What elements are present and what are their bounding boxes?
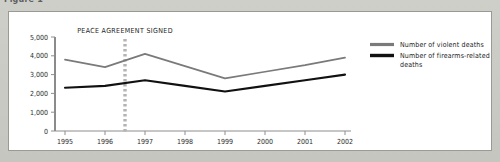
line-chart: 0 1,000 2,000 3,000 4,000 5,000 1995 199…	[9, 12, 493, 152]
x-tick-label-1998: 1998	[177, 138, 193, 146]
peace-agreement-annotation: PEACE AGREEMENT SIGNED	[77, 27, 173, 35]
y-tick-label-4000: 4,000	[30, 52, 48, 60]
figure-card: 0 1,000 2,000 3,000 4,000 5,000 1995 199…	[8, 11, 492, 151]
x-tick-label-1995: 1995	[57, 138, 73, 146]
legend-label-firearms-line2: deaths	[400, 61, 422, 69]
x-tick-label-1996: 1996	[97, 138, 113, 146]
figure-screenshot: Figure 1 0 1,000 2,000 3,000 4,000 5,00	[0, 0, 500, 162]
x-tick-label-2000: 2000	[257, 138, 273, 146]
figure-caption: Figure 1	[4, 0, 43, 4]
y-tick-label-0: 0	[44, 128, 48, 136]
series-line-firearms-deaths	[65, 75, 345, 92]
x-tick-label-2001: 2001	[297, 138, 313, 146]
series-line-violent-deaths	[65, 54, 345, 78]
y-tick-label-1000: 1,000	[30, 109, 48, 117]
x-tick-label-2002: 2002	[337, 138, 353, 146]
legend-label-violent: Number of violent deaths	[400, 41, 484, 49]
top-caption-strip: Figure 1	[0, 0, 500, 9]
x-tick-label-1999: 1999	[217, 138, 233, 146]
legend-label-firearms-line1: Number of firearms-related	[400, 52, 490, 60]
x-axis-ticks	[65, 131, 345, 135]
y-tick-label-2000: 2,000	[30, 90, 48, 98]
x-tick-label-1997: 1997	[137, 138, 153, 146]
chart-legend: Number of violent deaths Number of firea…	[370, 41, 490, 69]
y-tick-label-3000: 3,000	[30, 71, 48, 79]
y-tick-label-5000: 5,000	[30, 34, 48, 42]
